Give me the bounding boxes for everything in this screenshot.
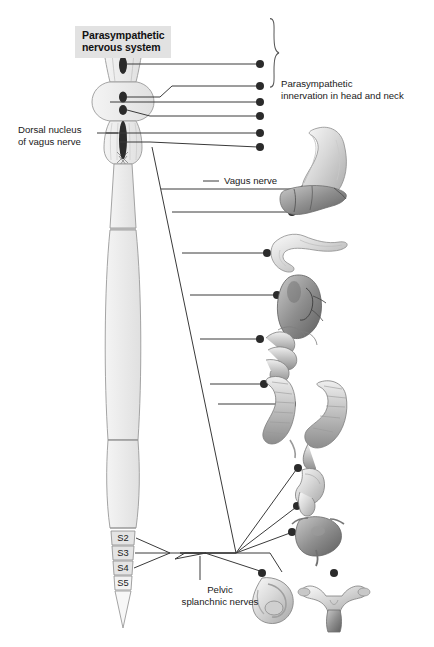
pelvic-branch-rectum — [236, 508, 295, 553]
pelvic-root-s4 — [134, 553, 170, 568]
dorsal-nucleus-of-vagus-nerve — [119, 121, 127, 159]
dot-pancreas — [263, 249, 271, 257]
superior-salivatory-nucleus — [119, 92, 127, 103]
organ-kidney — [277, 275, 326, 339]
spinal-cord-cervical — [110, 164, 136, 228]
head-neck-brace — [270, 19, 279, 88]
organ-liver — [280, 186, 346, 215]
pelvic-splanchnic-group — [134, 470, 296, 580]
page-title: Parasympathetic nervous system — [75, 26, 171, 58]
dot-bladder — [288, 528, 296, 536]
inferior-salivatory-nucleus — [119, 105, 127, 115]
organ-pancreas-duodenum — [271, 234, 347, 272]
parasympathetic-nervous-system-figure: Parasympathetic nervous system Dorsal nu… — [0, 0, 434, 647]
dot-sigmoid-colon — [294, 464, 302, 472]
spinal-cord-lumbar-enlargement — [107, 440, 140, 528]
label-pelvic-splanchnic-nerves: Pelvic splanchnic nerves — [168, 584, 272, 607]
target-dot-4 — [256, 112, 264, 120]
spinal-cord-thoracolumbar — [105, 230, 141, 440]
segment-label-s4: S4 — [111, 563, 135, 573]
segment-label-s2: S2 — [111, 533, 135, 543]
organ-ascending-colon — [263, 376, 296, 458]
dot-uterus — [330, 569, 338, 577]
pelvic-descending-male — [205, 553, 263, 572]
target-dot-6 — [256, 143, 264, 151]
pelvic-root-s2 — [136, 538, 170, 553]
target-dot-5 — [256, 129, 264, 137]
organ-descending-sigmoid-colon — [303, 381, 347, 470]
target-dot-3 — [256, 98, 264, 106]
pelvic-branch-sigmoid — [236, 470, 296, 553]
conus-medullaris — [115, 591, 131, 628]
label-parasympathetic-innervation-head-neck: Parasympathetic innervation in head and … — [281, 78, 404, 101]
label-vagus-nerve: Vagus nerve — [224, 175, 277, 187]
dot-male-genitalia — [258, 569, 266, 577]
label-dorsal-nucleus-of-vagus-nerve: Dorsal nucleus of vagus nerve — [18, 124, 81, 147]
segment-label-s3: S3 — [111, 548, 135, 558]
vagus-nerve-trunk — [152, 147, 236, 553]
segment-label-s5: S5 — [111, 578, 135, 588]
target-dot-2 — [256, 82, 264, 90]
organ-rectum — [295, 468, 324, 516]
pelvic-branch-uterus — [236, 553, 282, 572]
head-neck-target-dots — [256, 60, 264, 151]
edinger-westphal-nucleus — [119, 56, 127, 74]
organ-urinary-bladder — [292, 517, 344, 566]
target-dot-1 — [256, 60, 264, 68]
pelvic-branch-male-genitalia — [175, 553, 236, 559]
pelvic-branch-bladder — [236, 533, 290, 553]
organ-uterus-and-ovaries — [298, 586, 370, 632]
dot-small-intestine — [256, 335, 264, 343]
